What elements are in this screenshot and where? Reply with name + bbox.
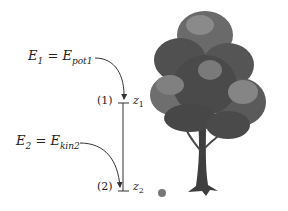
arrow-e1-to-point1: [95, 58, 124, 99]
height-scale: [118, 103, 129, 191]
tree-icon: [150, 11, 266, 196]
diagram-graphics: [0, 0, 288, 211]
arrow-e2-to-point2: [80, 143, 120, 187]
ball-icon: [158, 189, 166, 197]
